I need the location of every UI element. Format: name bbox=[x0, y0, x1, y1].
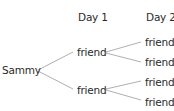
day1-node-2: friend bbox=[77, 84, 107, 96]
day2-node-4: friend bbox=[145, 96, 174, 108]
header-day-1: Day 1 bbox=[78, 11, 108, 23]
day2-node-1: friend bbox=[145, 36, 174, 48]
edge-root-to-friend-2 bbox=[38, 71, 73, 89]
edge-friend-2-to-child-1 bbox=[106, 81, 141, 89]
day2-node-2: friend bbox=[145, 56, 174, 68]
day2-node-3: friend bbox=[145, 76, 174, 88]
edge-friend-1-to-child-1 bbox=[106, 42, 141, 52]
day1-node-1: friend bbox=[77, 46, 107, 58]
edge-root-to-friend-1 bbox=[38, 52, 73, 70]
edge-friend-2-to-child-2 bbox=[106, 90, 141, 100]
root-node-sammy: Sammy bbox=[2, 64, 41, 76]
header-day-2: Day 2 bbox=[146, 11, 174, 23]
edge-friend-1-to-child-2 bbox=[106, 53, 141, 62]
